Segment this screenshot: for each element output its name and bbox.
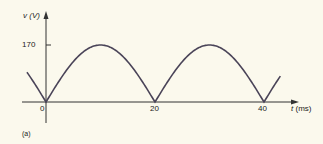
figure-caption: (a) xyxy=(22,130,31,137)
y-axis-arrow-icon xyxy=(44,11,49,19)
chart-canvas xyxy=(0,0,323,144)
rectified-sine-curve xyxy=(27,45,280,102)
x-axis-label: t (ms) xyxy=(291,104,311,113)
x-axis-unit: (ms) xyxy=(295,104,311,113)
y-axis-label: v (V) xyxy=(23,11,40,20)
x-tick-label-20: 20 xyxy=(150,104,159,113)
x-tick-label-0: 0 xyxy=(40,104,44,113)
x-tick-label-40: 40 xyxy=(258,104,267,113)
y-tick-label-170: 170 xyxy=(22,40,35,49)
